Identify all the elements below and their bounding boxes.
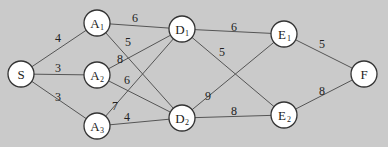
node-subscript: 2: [100, 75, 104, 84]
edge-weight-label: 6: [132, 11, 138, 25]
node-subscript: 1: [287, 34, 291, 43]
edge-weight-label: 7: [112, 99, 118, 113]
edge-a2-d1: [97, 29, 182, 75]
edge-weight-label: 5: [125, 35, 131, 49]
node-label: A: [90, 119, 100, 134]
node-label: S: [17, 67, 24, 82]
edge-weight-label: 3: [55, 90, 61, 104]
node-subscript: 1: [100, 23, 104, 32]
edge-weight-label: 5: [219, 45, 225, 59]
node-label: F: [360, 67, 367, 82]
edge-weight-label: 4: [55, 31, 61, 45]
node-label: A: [90, 16, 100, 31]
node-a1: A1: [84, 10, 110, 36]
node-label: E: [278, 27, 286, 42]
node-label: A: [90, 68, 100, 83]
node-e1: E1: [271, 21, 297, 47]
node-d1: D1: [169, 16, 195, 42]
node-a2: A2: [84, 62, 110, 88]
node-subscript: 3: [100, 126, 104, 135]
edge-weight-label: 9: [205, 89, 211, 103]
edge-weight-label: 6: [124, 73, 130, 87]
edge-weight-label: 4: [124, 110, 130, 124]
edge-weight-label: 8: [231, 104, 237, 118]
node-label: D: [175, 22, 184, 37]
edge-weight-label: 8: [319, 84, 325, 98]
node-subscript: 2: [287, 115, 291, 124]
node-f: F: [351, 61, 377, 87]
edge-d1-e2: [182, 29, 284, 115]
edge-weight-label: 6: [231, 20, 237, 34]
edge-weight-label: 8: [117, 52, 123, 66]
node-e2: E2: [271, 102, 297, 128]
node-subscript: 1: [185, 29, 189, 38]
node-subscript: 2: [185, 118, 189, 127]
node-label: D: [175, 111, 184, 126]
node-d2: D2: [169, 105, 195, 131]
edge-weight-label: 5: [319, 37, 325, 51]
node-label: E: [278, 108, 286, 123]
node-a3: A3: [84, 113, 110, 139]
node-s: S: [8, 61, 34, 87]
edge-weight-label: 3: [55, 61, 61, 75]
network-diagram: 433658674659858SA1A2A3D1D2E1E2F: [0, 0, 388, 147]
network-graph: 433658674659858SA1A2A3D1D2E1E2F: [0, 0, 388, 147]
